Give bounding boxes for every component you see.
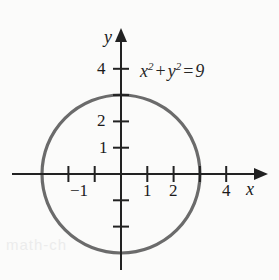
equation-x-base: x bbox=[140, 61, 148, 81]
equation-annotation: x2+y2=9 bbox=[140, 62, 204, 80]
y-axis-label: y bbox=[104, 28, 112, 46]
x-tick-label-neg1: −1 bbox=[70, 182, 88, 199]
equation-equals-sign: = bbox=[181, 61, 195, 81]
y-tick-label-2: 2 bbox=[97, 112, 106, 129]
graph-figure: 4 2 1 −1 1 2 4 y x x2+y2=9 math-ch bbox=[0, 0, 279, 280]
background-watermark: math-ch bbox=[6, 236, 67, 253]
y-tick-label-1: 1 bbox=[99, 139, 108, 156]
x-tick-label-4: 4 bbox=[222, 182, 231, 199]
equation-value: 9 bbox=[195, 61, 204, 81]
x-axis-label: x bbox=[246, 180, 254, 198]
y-tick-label-4: 4 bbox=[97, 60, 106, 77]
equation-y-base: y bbox=[168, 61, 176, 81]
x-tick-label-1: 1 bbox=[143, 182, 152, 199]
x-tick-label-2: 2 bbox=[169, 182, 178, 199]
equation-x-exponent: 2 bbox=[148, 60, 154, 72]
equation-plus-sign: + bbox=[154, 61, 168, 81]
